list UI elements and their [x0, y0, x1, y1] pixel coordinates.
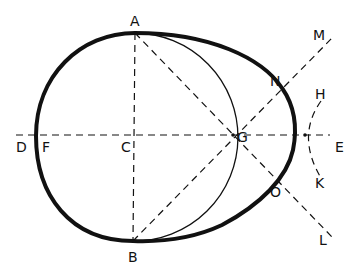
egg-outline — [36, 33, 295, 241]
label-G: G — [237, 129, 248, 145]
label-A: A — [130, 13, 140, 29]
label-N: N — [270, 73, 280, 89]
egg-construction-diagram: A B C D F G E M N H K O L — [0, 0, 361, 267]
line-BM — [133, 37, 333, 241]
label-F: F — [42, 139, 50, 155]
label-L: L — [319, 232, 327, 248]
vertical-axis-AB — [133, 33, 135, 241]
point-G-dot — [231, 133, 235, 137]
label-D: D — [16, 139, 27, 155]
label-B: B — [128, 249, 138, 265]
label-K: K — [315, 175, 325, 191]
label-H: H — [315, 86, 326, 102]
label-M: M — [313, 27, 325, 43]
point-intersection-dot — [303, 133, 307, 137]
label-E: E — [335, 139, 344, 155]
inner-circle-arc — [133, 33, 238, 241]
label-C: C — [121, 139, 131, 155]
arc-HK — [309, 101, 322, 178]
label-O: O — [270, 184, 281, 200]
